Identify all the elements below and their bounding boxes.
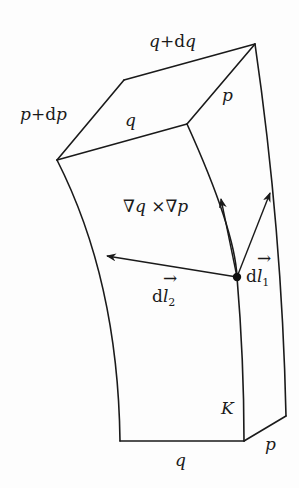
label-top-q: q bbox=[125, 110, 136, 130]
label-bottom-p: p bbox=[265, 434, 276, 454]
edge-top-right-p bbox=[187, 44, 255, 124]
label-bottom-q: q bbox=[175, 450, 186, 470]
vector-gradient-cross bbox=[221, 199, 237, 277]
edge-top-front-q bbox=[57, 124, 187, 160]
label-dl1: dl1 bbox=[246, 266, 269, 289]
edge-front-curved bbox=[187, 124, 244, 441]
volume-element-diagram: q+dq p+dp q p ∇q ×∇p dl1 → dl2 → K q p bbox=[0, 0, 299, 488]
label-gradient-cross: ∇q ×∇p bbox=[123, 196, 188, 216]
diagram-canvas: q+dq p+dp q p ∇q ×∇p dl1 → dl2 → K q p bbox=[0, 0, 299, 488]
label-corner-k: K bbox=[220, 398, 235, 418]
label-dl1-arrow: → bbox=[257, 248, 271, 268]
label-p-plus-dp: p+dp bbox=[20, 104, 67, 124]
label-q-plus-dq: q+dq bbox=[149, 31, 196, 51]
label-dl2-arrow: → bbox=[163, 268, 177, 288]
edge-left-curved bbox=[57, 160, 120, 441]
label-top-p: p bbox=[222, 85, 233, 105]
point-marker bbox=[233, 273, 241, 281]
edge-right-back bbox=[255, 44, 286, 416]
edge-top-left-p-plus-dp bbox=[57, 80, 124, 160]
label-dl2: dl2 bbox=[152, 286, 175, 309]
